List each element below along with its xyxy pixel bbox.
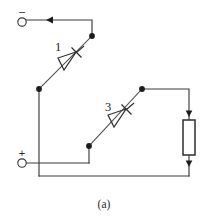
wire-top-rail bbox=[26, 20, 92, 36]
thyristor-3[interactable] bbox=[108, 103, 134, 127]
node-dot-group bbox=[36, 33, 145, 149]
thyristor-1[interactable] bbox=[58, 46, 84, 70]
wire-group bbox=[26, 20, 189, 176]
arrow-load-top-icon bbox=[186, 111, 193, 118]
thyristor-3-label: 3 bbox=[105, 100, 111, 114]
node-top-right bbox=[89, 33, 95, 39]
negative-terminal-sign: – bbox=[19, 5, 26, 17]
thyristor-1-gate-lead bbox=[77, 46, 85, 53]
branch-line-thyristor-3 bbox=[89, 89, 142, 146]
current-arrow-group bbox=[46, 17, 192, 167]
branch-line-thyristor-1 bbox=[39, 36, 92, 89]
wire-right-top-rail bbox=[142, 89, 189, 121]
node-left-mid bbox=[36, 86, 42, 92]
load-resistor[interactable] bbox=[183, 120, 195, 155]
node-bottom-mid bbox=[86, 143, 92, 149]
positive-terminal[interactable] bbox=[18, 159, 26, 167]
negative-terminal[interactable] bbox=[18, 18, 26, 26]
positive-terminal-sign: + bbox=[19, 147, 25, 159]
circuit-schematic-canvas: 1 3 – + bbox=[0, 0, 208, 219]
figure-caption: (a) bbox=[98, 198, 111, 211]
circuit-figure: 1 3 – + bbox=[0, 0, 208, 219]
node-right-mid bbox=[139, 86, 145, 92]
negative-terminal-circle bbox=[18, 18, 26, 26]
arrow-load-bottom-icon bbox=[186, 161, 193, 168]
arrow-top-wire-icon bbox=[46, 17, 53, 24]
positive-terminal-circle bbox=[18, 159, 26, 167]
thyristor-1-label: 1 bbox=[55, 40, 61, 54]
